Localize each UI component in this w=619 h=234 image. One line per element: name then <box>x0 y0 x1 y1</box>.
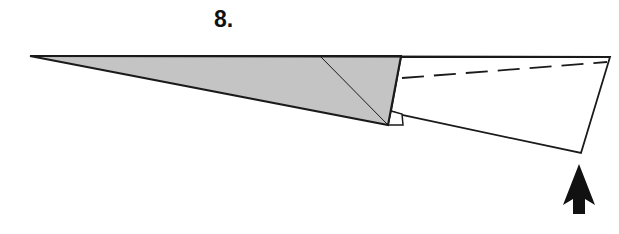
fold-up-arrow-icon <box>563 164 595 214</box>
shaded-section <box>30 56 401 125</box>
white-flap <box>391 57 610 153</box>
top-edge <box>30 56 610 57</box>
origami-diagram <box>0 0 619 234</box>
